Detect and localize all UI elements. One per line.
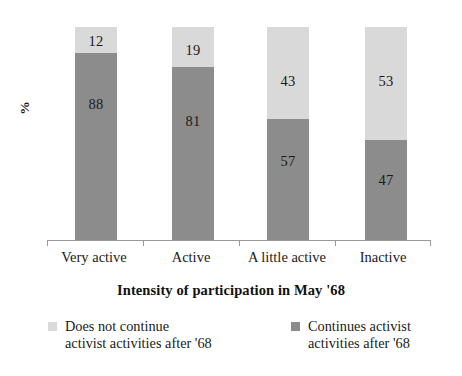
legend-item-continues[interactable]: Continues activist activities after '68: [291, 318, 411, 352]
x-axis-tick: [239, 240, 240, 246]
bar-segment-does-not-continue[interactable]: 12: [75, 27, 117, 53]
stacked-bar-chart: % 12 88 19 81 43 57: [0, 0, 462, 376]
bar-value-label-bottom: 57: [281, 154, 296, 169]
bar-active[interactable]: 19 81: [172, 27, 214, 240]
x-axis-tick: [335, 240, 336, 246]
plot-area: 12 88 19 81 43 57 53: [47, 20, 430, 240]
bar-value-label-bottom: 81: [186, 114, 201, 129]
bar-segment-continues[interactable]: 81: [172, 67, 214, 240]
x-axis-tick: [143, 240, 144, 246]
bar-value-label-top: 43: [281, 74, 296, 89]
legend-label: Continues activist activities after '68: [308, 318, 411, 352]
bar-segment-does-not-continue[interactable]: 19: [172, 27, 214, 67]
bar-value-label-bottom: 47: [379, 173, 394, 188]
x-axis-tick: [430, 240, 431, 246]
bar-segment-continues[interactable]: 57: [267, 119, 309, 240]
bar-segment-does-not-continue[interactable]: 43: [267, 27, 309, 119]
y-axis-title: %: [17, 101, 33, 115]
bar-segment-continues[interactable]: 47: [365, 140, 407, 240]
legend-swatch-dark-icon: [291, 322, 300, 331]
bar-value-label-top: 12: [89, 34, 104, 49]
x-axis-tick: [47, 240, 48, 246]
bar-value-label-top: 19: [186, 43, 201, 58]
x-axis-category-label-active: Active: [143, 249, 239, 266]
bar-inactive[interactable]: 53 47: [365, 27, 407, 240]
x-axis-title: Intensity of participation in May '68: [0, 282, 462, 299]
legend-label: Does not continue activist activities af…: [65, 318, 212, 352]
x-axis-category-label-a-little-active: A little active: [237, 249, 337, 266]
bar-value-label-bottom: 88: [89, 97, 104, 112]
x-axis-category-label-inactive: Inactive: [335, 249, 431, 266]
legend-swatch-light-icon: [48, 322, 57, 331]
x-axis-category-label-very-active: Very active: [46, 249, 142, 266]
legend-item-does-not-continue[interactable]: Does not continue activist activities af…: [48, 318, 212, 352]
bar-very-active[interactable]: 12 88: [75, 27, 117, 240]
bar-segment-does-not-continue[interactable]: 53: [365, 27, 407, 140]
bar-a-little-active[interactable]: 43 57: [267, 27, 309, 240]
bar-value-label-top: 53: [379, 74, 394, 89]
chart-legend: Does not continue activist activities af…: [0, 313, 462, 363]
bar-segment-continues[interactable]: 88: [75, 53, 117, 240]
